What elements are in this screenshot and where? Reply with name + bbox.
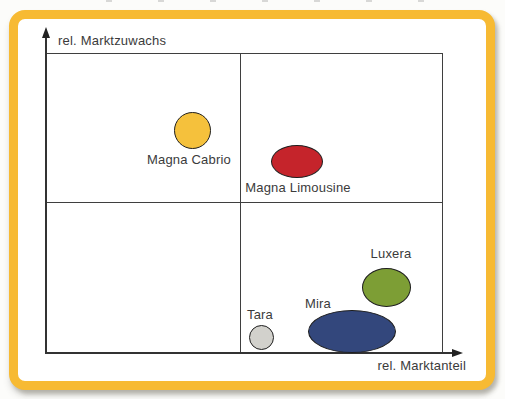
bubble-label-luxera: Luxera (326, 246, 456, 261)
figure-canvas: rel. Marktzuwachs rel. Marktanteil Magna… (0, 0, 505, 399)
bubble-label-magna-limousine: Magna Limousine (233, 180, 363, 195)
bubble-magna-cabrio (174, 112, 211, 149)
y-axis-label: rel. Marktzuwachs (58, 33, 166, 48)
cropped-text-artifact (60, 0, 452, 2)
x-axis-label: rel. Marktanteil (346, 358, 466, 373)
quadrant-divider-horizontal (46, 202, 442, 203)
y-axis-line (45, 36, 47, 353)
x-axis-arrowhead-icon (452, 349, 463, 357)
bubble-tara (249, 325, 274, 350)
x-axis-line (45, 352, 457, 354)
bubble-label-tara: Tara (195, 307, 325, 322)
y-axis-arrowhead-icon (42, 27, 50, 38)
bubble-magna-limousine (271, 145, 323, 178)
bubble-label-magna-cabrio: Magna Cabrio (124, 152, 254, 167)
